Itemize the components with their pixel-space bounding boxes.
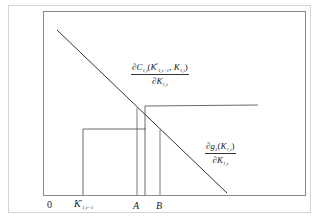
mc-close: ) [185,62,188,72]
mb-den-prefix: ∂K [213,155,223,165]
mc-arg1-sub: 1,t−1 [158,68,169,73]
k-prev-sub: 1,t−1 [82,205,93,210]
k-prev-axis-label: K*1,t−1 [74,199,93,210]
diagram-lines [0,0,316,219]
mb-den-sub: 1,t [223,161,228,166]
marginal-benefit-line [57,30,227,193]
upper-cost-step [145,105,258,195]
marginal-benefit-formula: ∂g1(K1,t) ∂K1,t [205,142,236,166]
lower-cost-step [83,129,146,195]
mc-den-sub: 1,t [163,82,168,87]
mc-prefix: ∂C [132,62,142,72]
mc-den-prefix: ∂K [152,76,162,86]
b-axis-label: B [156,201,162,211]
a-axis-label: A [133,201,139,211]
mb-prefix: ∂g [206,141,215,151]
mc-arg1-sup: * [156,62,159,67]
marginal-benefit-denominator: ∂K1,t [205,154,236,166]
mb-close: ) [232,141,235,151]
origin-label: 0 [47,200,52,210]
marginal-benefit-numerator: ∂g1(K1,t) [205,142,236,154]
marginal-cost-denominator: ∂K1,t [131,75,189,87]
marginal-cost-numerator: ∂C1,t(K*1,t−1, K1,t) [131,62,189,75]
k-prev-sup: * [80,199,83,204]
marginal-cost-formula: ∂C1,t(K*1,t−1, K1,t) ∂K1,t [131,62,189,87]
